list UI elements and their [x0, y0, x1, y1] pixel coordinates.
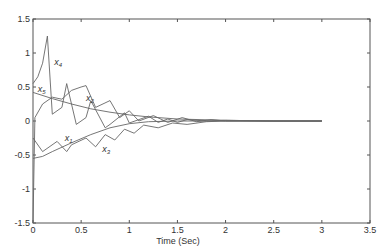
series-label-x1: x1 [64, 133, 73, 144]
series-line-x4 [33, 36, 322, 128]
series-line-x2 [33, 86, 322, 223]
series-line-x3 [33, 121, 322, 152]
x-tick-label: 3.5 [364, 225, 377, 235]
y-axis-tick-labels: 1.510.50-0.5-1-1.5 [14, 14, 30, 228]
x-tick-label: 1 [127, 225, 132, 235]
line-chart: 00.511.522.533.5 1.510.50-0.5-1-1.5 x4x5… [0, 0, 389, 251]
series-label-x5: x5 [37, 84, 47, 95]
series-label-x3: x3 [101, 144, 111, 155]
series-line-x5 [33, 92, 322, 121]
x-tick-label: 0 [30, 225, 35, 235]
y-tick-label: -1.5 [14, 218, 30, 228]
y-tick-label: 1.5 [17, 14, 30, 24]
x-tick-label: 0.5 [75, 225, 88, 235]
x-axis-tick-labels: 00.511.522.533.5 [30, 225, 376, 235]
x-tick-label: 2 [223, 225, 228, 235]
x-axis-label: Time (Sec) [156, 236, 200, 246]
series-label-x2: x2 [85, 93, 95, 104]
y-tick-label: -0.5 [14, 150, 30, 160]
series-line-x1 [33, 121, 322, 158]
data-series [33, 36, 322, 223]
x-tick-label: 1.5 [171, 225, 184, 235]
series-label-x4: x4 [53, 57, 63, 68]
y-tick-label: 0 [25, 116, 30, 126]
x-tick-label: 3 [319, 225, 324, 235]
y-tick-label: -1 [22, 184, 30, 194]
x-tick-label: 2.5 [267, 225, 280, 235]
y-tick-label: 0.5 [17, 82, 30, 92]
y-tick-label: 1 [25, 48, 30, 58]
